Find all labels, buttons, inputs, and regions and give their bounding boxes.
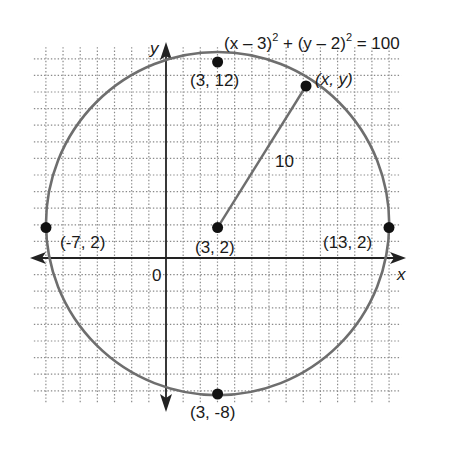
point-left bbox=[41, 222, 52, 233]
label-general-point: (x, y) bbox=[315, 70, 353, 89]
point-bottom bbox=[212, 389, 223, 400]
equation-part-2: + (y – 2) bbox=[278, 34, 346, 53]
equation-part-1: (x – 3) bbox=[224, 34, 272, 53]
equation: (x – 3)2 + (y – 2)2 = 100 bbox=[224, 31, 400, 53]
label-right-point: (13, 2) bbox=[323, 233, 372, 252]
point-right bbox=[384, 222, 395, 233]
y-axis-label: y bbox=[149, 39, 160, 58]
points bbox=[41, 57, 395, 400]
diagram-canvas: y x 0 (x – 3)2 + (y – 2)2 = 100 (3, 12) … bbox=[0, 0, 462, 450]
point-general bbox=[301, 81, 312, 92]
point-center bbox=[212, 222, 223, 233]
x-axis-label: x bbox=[396, 265, 406, 284]
origin-label: 0 bbox=[152, 266, 161, 285]
point-top bbox=[212, 57, 223, 68]
label-top-point: (3, 12) bbox=[190, 71, 239, 90]
equation-part-3: = 100 bbox=[352, 34, 400, 53]
label-bottom-point: (3, -8) bbox=[190, 403, 235, 422]
label-center-point: (3, 2) bbox=[195, 238, 235, 257]
radius-label: 10 bbox=[275, 152, 294, 171]
label-left-point: (-7, 2) bbox=[60, 233, 105, 252]
circle-diagram: y x 0 (x – 3)2 + (y – 2)2 = 100 (3, 12) … bbox=[0, 0, 462, 450]
